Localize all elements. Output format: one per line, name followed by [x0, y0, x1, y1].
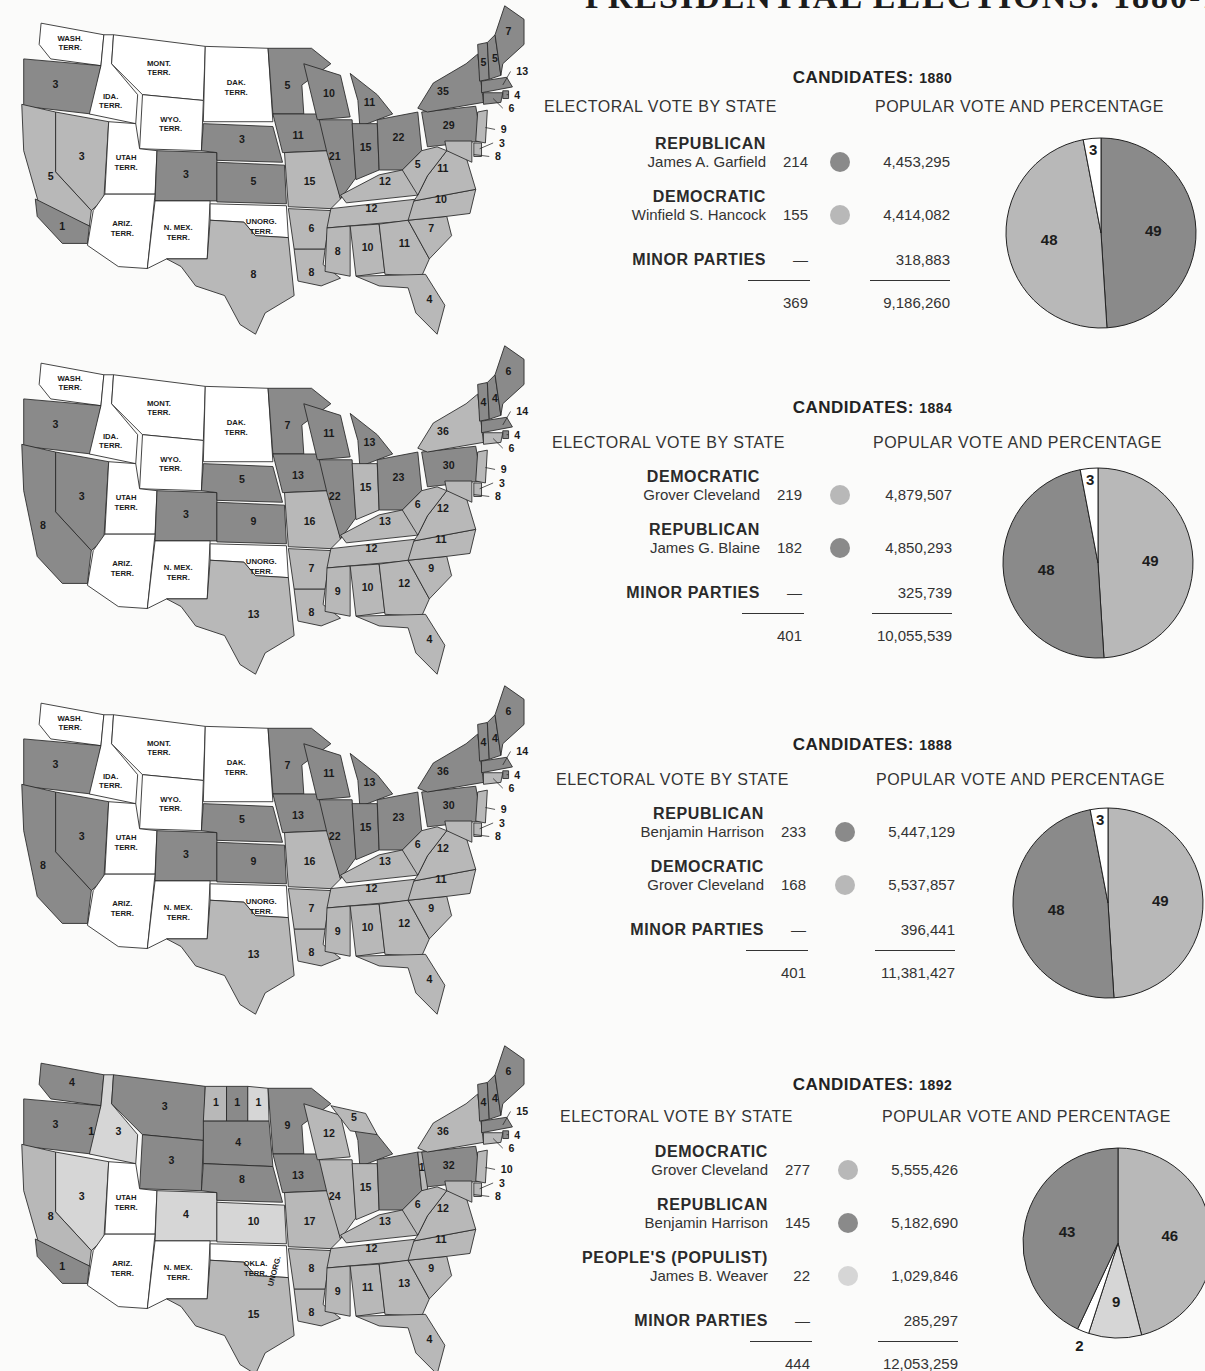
- popular-votes: 4,453,295: [850, 153, 950, 170]
- state-electoral-votes: 12: [437, 502, 449, 514]
- candidate-name: Grover Cleveland: [494, 876, 764, 893]
- territory-label: MONT.TERR.: [147, 59, 171, 78]
- territory-label: UNORG.TERR.: [246, 557, 277, 576]
- results-row: REPUBLICANBenjamin Harrison1455,182,690: [540, 1196, 960, 1236]
- party-name: MINOR PARTIES: [490, 584, 760, 602]
- total-divider: [870, 280, 950, 281]
- electoral-map: UTAHTERR.ARIZ.TERR.N. MEX.TERR.OKLA.TERR…: [0, 1040, 540, 1371]
- state-ny: [418, 1094, 484, 1152]
- state-electoral-votes: 1: [419, 1161, 425, 1173]
- state-electoral-votes: 5: [481, 56, 487, 68]
- state-electoral-votes: 12: [437, 1202, 449, 1214]
- state-electoral-votes: 12: [366, 1243, 378, 1255]
- state-electoral-votes: 3: [115, 1125, 121, 1137]
- total-divider: [878, 1341, 958, 1342]
- pie-slice-label: 3: [1096, 811, 1104, 828]
- state-electoral-votes: 3: [239, 133, 245, 145]
- candidates-heading: CANDIDATES: 1892: [540, 1075, 1205, 1095]
- party-color-swatch: [830, 152, 850, 172]
- state-electoral-votes: 13: [292, 1169, 304, 1181]
- state-electoral-votes: 5: [415, 158, 421, 170]
- state-electoral-votes: 5: [239, 473, 245, 485]
- territory-label: WYO.TERR.: [159, 115, 182, 134]
- popular-votes: 4,414,082: [850, 206, 950, 223]
- state-or: [24, 59, 101, 114]
- state-electoral-votes: 11: [323, 427, 334, 439]
- state-electoral-votes: 3: [183, 508, 189, 520]
- state-electoral-votes: 5: [492, 52, 498, 64]
- state-electoral-votes: 30: [443, 799, 455, 811]
- state-electoral-votes: 30: [443, 459, 455, 471]
- state-electoral-votes: 4: [514, 1129, 520, 1141]
- total-divider: [742, 613, 804, 614]
- state-electoral-votes: 6: [309, 222, 315, 234]
- state-electoral-votes: 13: [292, 469, 304, 481]
- state-electoral-votes: 12: [366, 543, 378, 555]
- party-name: REPUBLICAN: [498, 1196, 768, 1214]
- state-electoral-votes: 4: [235, 1136, 241, 1148]
- state-electoral-votes: 9: [251, 855, 257, 867]
- state-electoral-votes: 8: [335, 245, 341, 257]
- results-row: DEMOCRATICGrover Cleveland1685,537,857: [540, 858, 960, 898]
- electoral-votes: —: [766, 921, 806, 938]
- state-or: [24, 399, 101, 454]
- electoral-votes: 219: [762, 486, 802, 503]
- territory-label: DAK.TERR.: [225, 78, 248, 97]
- total-electoral-votes: 444: [770, 1355, 810, 1371]
- candidates-heading: CANDIDATES: 1880: [540, 68, 1205, 88]
- state-electoral-votes: 11: [437, 162, 448, 174]
- state-electoral-votes: 6: [415, 498, 421, 510]
- territory-label: ARIZ.TERR.: [111, 899, 134, 918]
- candidate-name: James B. Weaver: [498, 1267, 768, 1284]
- state-electoral-votes: 13: [292, 809, 304, 821]
- party-name: PEOPLE'S (POPULIST): [498, 1249, 768, 1267]
- results-row: DEMOCRATICWinfield S. Hancock1554,414,08…: [540, 188, 960, 228]
- territory-label: UTAHTERR.: [115, 1193, 138, 1212]
- state-electoral-votes: 24: [329, 1190, 341, 1202]
- state-electoral-votes: 13: [248, 608, 260, 620]
- state-electoral-votes: 4: [426, 1333, 432, 1345]
- state-electoral-votes: 13: [379, 1215, 391, 1227]
- popular-vote-pie: 49483: [1003, 468, 1193, 658]
- state-electoral-votes: 3: [79, 1190, 85, 1202]
- state-electoral-votes: 6: [509, 442, 515, 454]
- territory-label: UNORG.TERR.: [246, 897, 277, 916]
- state-electoral-votes: 3: [79, 830, 85, 842]
- results-row: MINOR PARTIES—285,297: [540, 1302, 960, 1342]
- territory-label: ARIZ.TERR.: [111, 1259, 134, 1278]
- state-electoral-votes: 1: [234, 1096, 240, 1108]
- state-electoral-votes: 3: [79, 150, 85, 162]
- state-electoral-votes: 9: [501, 123, 507, 135]
- state-electoral-votes: 23: [393, 811, 405, 823]
- total-electoral-votes: 401: [766, 964, 806, 981]
- state-electoral-votes: 11: [323, 767, 334, 779]
- election-section-1880: WASH.TERR.MONT.TERR.DAK.TERR.IDA.TERR.WY…: [0, 0, 1205, 340]
- state-nj: [476, 790, 488, 823]
- results-row: MINOR PARTIES—396,441: [540, 911, 960, 951]
- pie-slice-label: 49: [1145, 222, 1162, 239]
- candidates-label: CANDIDATES:: [793, 398, 914, 417]
- electoral-votes: 155: [768, 206, 808, 223]
- state-electoral-votes: 10: [248, 1215, 260, 1227]
- party-name: MINOR PARTIES: [496, 251, 766, 269]
- state-nj: [476, 450, 488, 483]
- candidates-heading: CANDIDATES: 1884: [540, 398, 1205, 418]
- popular-votes: 325,739: [852, 584, 952, 601]
- pie-slice-label: 49: [1142, 552, 1159, 569]
- electoral-votes: 214: [768, 153, 808, 170]
- state-electoral-votes: 9: [284, 1119, 290, 1131]
- electoral-vote-heading: ELECTORAL VOTE BY STATE: [552, 434, 785, 452]
- state-electoral-votes: 3: [162, 1100, 168, 1112]
- state-electoral-votes: 8: [239, 1173, 245, 1185]
- state-electoral-votes: 1: [88, 1125, 94, 1137]
- pie-slice-label: 3: [1086, 471, 1094, 488]
- election-year: 1888: [919, 737, 952, 753]
- territory-label: N. MEX.TERR.: [164, 903, 193, 922]
- popular-vote-heading: POPULAR VOTE AND PERCENTAGE: [876, 771, 1165, 789]
- state-electoral-votes: 4: [492, 392, 498, 404]
- state-electoral-votes: 7: [284, 419, 290, 431]
- state-ny: [418, 734, 484, 792]
- state-electoral-votes: 4: [514, 89, 520, 101]
- state-electoral-votes: 10: [362, 921, 374, 933]
- territory-label: DAK.TERR.: [225, 758, 248, 777]
